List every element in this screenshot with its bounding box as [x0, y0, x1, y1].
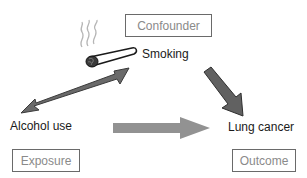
exposure-role-box: Exposure — [12, 149, 80, 172]
arrow-alcohol-to-lung-cancer — [113, 117, 210, 139]
lung-cancer-label: Lung cancer — [228, 120, 294, 134]
smoking-label: Smoking — [142, 47, 189, 61]
confounder-role-box: Confounder — [125, 14, 212, 37]
smoke-icon — [81, 20, 97, 47]
alcohol-use-label: Alcohol use — [10, 119, 72, 133]
cigarette-icon — [86, 48, 136, 67]
outcome-role-label: Outcome — [240, 154, 289, 168]
arrow-smoking-to-lung-cancer — [204, 67, 243, 116]
confounder-role-label: Confounder — [137, 19, 200, 33]
outcome-role-box: Outcome — [232, 149, 296, 172]
bidirectional-arrow-smoking-alcohol — [21, 68, 129, 113]
exposure-role-label: Exposure — [21, 154, 72, 168]
